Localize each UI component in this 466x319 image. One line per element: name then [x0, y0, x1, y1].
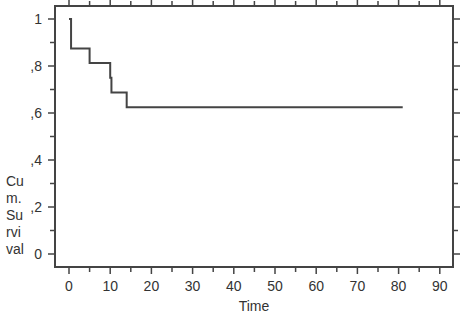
- y-axis: 0,2,4,6,81: [30, 11, 460, 262]
- x-tick-label: 70: [350, 278, 366, 294]
- x-tick-label: 0: [65, 278, 73, 294]
- y-axis-label: Cu m. Su rvi val: [6, 173, 36, 258]
- y-tick-label: ,6: [30, 105, 42, 121]
- x-tick-label: 30: [185, 278, 201, 294]
- y-tick-label: 1: [34, 11, 42, 27]
- x-axis: 0102030405060708090: [65, 0, 448, 294]
- x-tick-label: 40: [226, 278, 242, 294]
- survival-chart: 0102030405060708090 0,2,4,6,81 Time: [0, 0, 466, 319]
- x-tick-label: 80: [391, 278, 407, 294]
- y-axis-label-line: Cu: [6, 173, 36, 190]
- x-tick-label: 50: [267, 278, 283, 294]
- plot-frame: [55, 6, 453, 267]
- x-tick-label: 10: [102, 278, 118, 294]
- x-axis-label: Time: [239, 298, 270, 314]
- y-axis-label-line: val: [6, 241, 36, 258]
- y-axis-label-line: Su: [6, 207, 36, 224]
- y-axis-label-line: m.: [6, 190, 36, 207]
- x-tick-label: 20: [144, 278, 160, 294]
- y-tick-label: ,8: [30, 58, 42, 74]
- x-tick-label: 90: [432, 278, 448, 294]
- x-tick-label: 60: [308, 278, 324, 294]
- y-tick-label: ,4: [30, 152, 42, 168]
- y-axis-label-line: rvi: [6, 224, 36, 241]
- survival-curve: [69, 19, 403, 107]
